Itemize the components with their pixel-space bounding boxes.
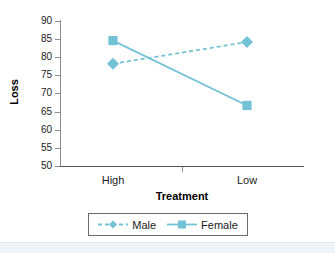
y-tick-75: [55, 75, 60, 76]
y-axis-title: Loss: [8, 67, 20, 117]
legend-entry-male: Male: [98, 219, 156, 231]
y-tick-85: [55, 39, 60, 40]
y-tick-label-text: 50: [26, 161, 52, 171]
y-tick-60: [55, 130, 60, 131]
female-point-high: [108, 36, 117, 45]
y-axis-line: [60, 20, 61, 167]
y-tick-label-55: 55: [26, 143, 52, 153]
male-point-low: [241, 36, 253, 48]
y-tick-label-text: 65: [26, 107, 52, 117]
legend-entry-female: Female: [167, 219, 238, 231]
y-tick-label-75: 75: [26, 70, 52, 80]
y-tick-label-50: 50: [26, 161, 52, 171]
y-tick-55: [55, 148, 60, 149]
x-tick-label-high: High: [73, 174, 153, 186]
x-tick-middle: [182, 167, 183, 172]
y-tick-label-text: 75: [26, 70, 52, 80]
female-legend-swatch-icon: [167, 219, 197, 230]
y-tick-label-85: 85: [26, 34, 52, 44]
y-tick-70: [55, 93, 60, 94]
legend-label-female: Female: [201, 219, 238, 231]
y-tick-label-60: 60: [26, 125, 52, 135]
male-point-high: [107, 58, 119, 70]
y-tick-label-text: 90: [26, 16, 52, 26]
y-tick-label-text: 60: [26, 125, 52, 135]
y-tick-80: [55, 57, 60, 58]
female-series-line: [113, 41, 247, 106]
male-legend-swatch-icon: [98, 219, 128, 230]
y-tick-label-text: 80: [26, 52, 52, 62]
x-tick-label-low: Low: [207, 174, 287, 186]
female-point-low: [242, 101, 251, 110]
chart-figure: 90 85 80 75 70 65 60 55 50 Loss High Low…: [0, 0, 335, 253]
male-series-line: [113, 42, 247, 64]
y-tick-label-90: 90: [26, 16, 52, 26]
y-tick-label-text: 70: [26, 88, 52, 98]
page-bottom-band: [0, 242, 335, 253]
y-tick-65: [55, 112, 60, 113]
y-tick-label-65: 65: [26, 107, 52, 117]
x-axis-title: Treatment: [61, 190, 303, 202]
legend: Male Female: [88, 213, 248, 236]
y-tick-label-70: 70: [26, 88, 52, 98]
legend-label-male: Male: [132, 219, 156, 231]
y-tick-label-80: 80: [26, 52, 52, 62]
y-tick-90: [55, 21, 60, 22]
y-tick-label-text: 55: [26, 143, 52, 153]
y-tick-label-text: 85: [26, 34, 52, 44]
